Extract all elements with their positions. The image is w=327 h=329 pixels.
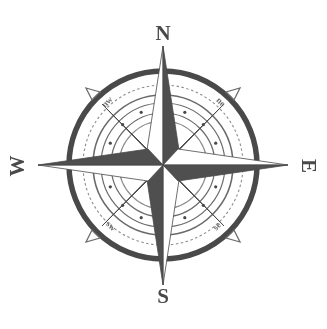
label-north: N <box>155 21 170 45</box>
label-east: E <box>297 159 321 173</box>
label-west: W <box>5 156 29 177</box>
compass-rose-figure: nw ne se sw N E S W <box>0 0 327 329</box>
label-south: S <box>157 284 169 308</box>
compass-rose-drawing: nw ne se sw N E S W <box>0 0 327 329</box>
